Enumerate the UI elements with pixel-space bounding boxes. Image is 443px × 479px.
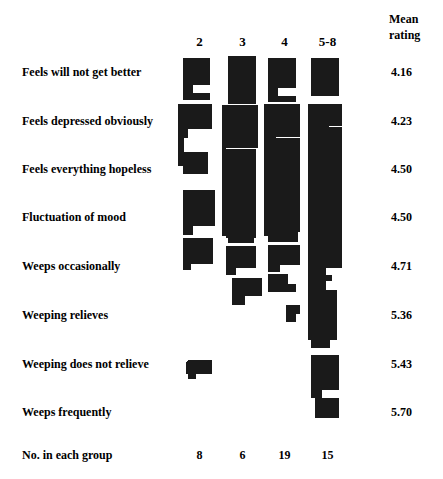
chart-root: 2 3 4 5-8 Mean rating Feels will not get…	[0, 0, 443, 479]
bar-segment-group-4	[286, 305, 300, 322]
bar-segment-group-4	[268, 58, 296, 102]
bar-segment-group-5-8	[311, 58, 339, 96]
bar-segment-group-5-8	[311, 355, 339, 418]
bar-segment-group-3	[226, 246, 256, 275]
bar-segment-group-2	[186, 360, 212, 379]
bar-segment-group-4	[268, 245, 300, 272]
bar-segment-group-2	[183, 238, 213, 270]
bar-segment-group-3	[232, 278, 262, 305]
bar-segment-group-5-8	[329, 127, 342, 168]
bar-segment-group-2	[178, 104, 212, 174]
bar-segment-group-2	[183, 190, 215, 235]
bar-segment-group-4	[268, 274, 296, 292]
stacked-profile-bars	[0, 0, 443, 479]
bar-segment-group-3	[228, 56, 256, 104]
bar-segment-group-3	[226, 149, 256, 238]
bars-layer	[0, 0, 443, 479]
bar-segment-group-2	[183, 58, 210, 100]
bar-segment-group-4	[276, 138, 300, 232]
